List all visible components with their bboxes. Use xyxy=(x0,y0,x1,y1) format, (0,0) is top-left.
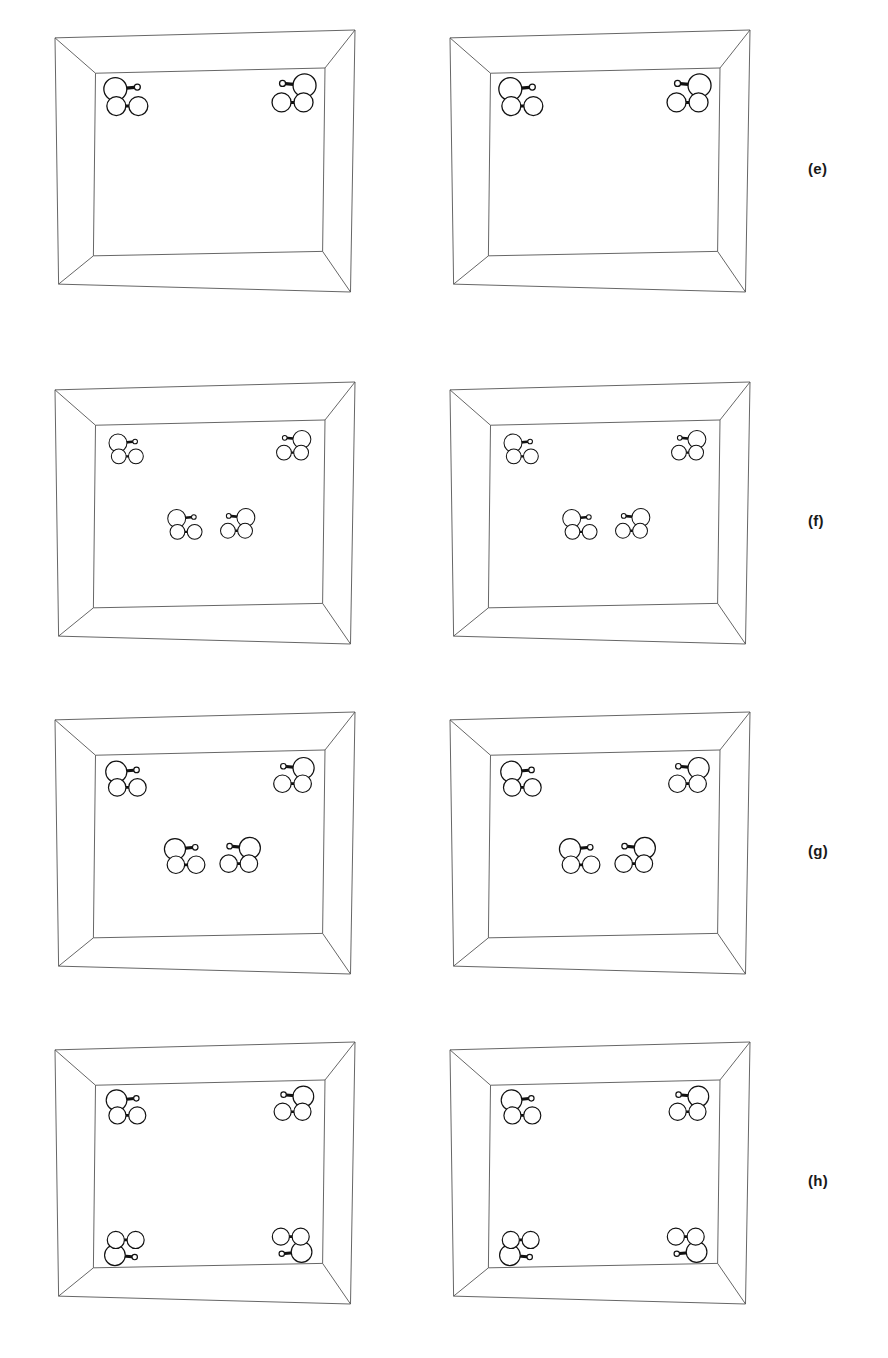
molecule xyxy=(168,510,202,540)
molecule xyxy=(272,1228,312,1262)
cell-edge-top-left xyxy=(55,38,96,73)
molecule xyxy=(220,837,260,872)
unit-cell-box xyxy=(55,712,355,974)
atom-medium-sphere xyxy=(167,856,184,873)
atom-medium-sphere xyxy=(524,97,543,116)
molecule xyxy=(669,1086,709,1120)
cell-front-face xyxy=(55,30,355,292)
molecule xyxy=(501,761,541,796)
unit-cell-box xyxy=(450,1042,750,1304)
atom-medium-sphere xyxy=(669,1103,686,1120)
atom-small-sphere xyxy=(675,80,681,86)
atom-medium-sphere xyxy=(565,524,580,539)
cell-edge-top-right xyxy=(720,1042,750,1080)
panel-label-e: (e) xyxy=(808,160,827,177)
cell-front-face xyxy=(55,382,355,644)
atom-medium-sphere xyxy=(524,1107,541,1124)
cell-edge-top-right xyxy=(720,382,750,420)
stereo-view-left-g xyxy=(55,712,355,974)
cell-edge-bottom-right xyxy=(718,1263,746,1304)
cell-front-face xyxy=(450,712,750,974)
unit-cell-box xyxy=(55,30,355,292)
molecule xyxy=(501,1090,541,1124)
cell-front-face xyxy=(450,382,750,644)
atom-medium-sphere xyxy=(294,445,309,460)
stereo-view-left-e xyxy=(55,30,355,292)
cell-front-face xyxy=(450,1042,750,1304)
atom-small-sphere xyxy=(676,764,682,770)
molecule xyxy=(109,434,143,464)
atom-medium-sphere xyxy=(129,449,144,464)
atom-medium-sphere xyxy=(240,855,257,872)
atom-medium-sphere xyxy=(635,855,652,872)
atom-medium-sphere xyxy=(524,449,539,464)
stereo-view-right-e xyxy=(450,30,750,292)
atom-medium-sphere xyxy=(667,93,686,112)
molecule xyxy=(616,509,650,539)
atom-small-sphere xyxy=(677,435,682,440)
atom-small-sphere xyxy=(621,514,626,519)
atom-medium-sphere xyxy=(502,1231,519,1248)
cell-edge-top-left xyxy=(55,390,96,425)
atom-medium-sphere xyxy=(220,855,237,872)
cell-edge-top-left xyxy=(450,38,491,73)
cell-front-face xyxy=(55,712,355,974)
atom-small-sphere xyxy=(280,80,286,86)
cell-edge-bottom-left xyxy=(59,608,94,636)
atom-small-sphere xyxy=(529,767,535,773)
atom-medium-sphere xyxy=(689,1103,706,1120)
unit-cell-box xyxy=(55,1042,355,1304)
atom-small-sphere xyxy=(587,515,592,520)
atom-medium-sphere xyxy=(108,779,125,796)
atom-medium-sphere xyxy=(221,523,236,538)
cell-edge-top-left xyxy=(55,720,96,755)
atom-small-sphere xyxy=(622,843,628,849)
molecule xyxy=(104,78,148,116)
atom-medium-sphere xyxy=(633,523,648,538)
atom-medium-sphere xyxy=(562,856,579,873)
atom-small-sphere xyxy=(281,1092,286,1097)
molecule xyxy=(221,509,255,539)
stereo-view-right-h xyxy=(450,1042,750,1304)
atom-medium-sphere xyxy=(277,445,292,460)
atom-medium-sphere xyxy=(689,445,704,460)
atom-medium-sphere xyxy=(689,93,708,112)
atom-small-sphere xyxy=(227,843,233,849)
atom-small-sphere xyxy=(132,1254,137,1259)
atom-medium-sphere xyxy=(522,1231,539,1248)
cell-edge-top-right xyxy=(325,712,355,750)
atom-small-sphere xyxy=(134,84,140,90)
atom-medium-sphere xyxy=(272,1228,289,1245)
atom-medium-sphere xyxy=(187,524,202,539)
atom-medium-sphere xyxy=(274,775,291,792)
molecule xyxy=(615,837,655,872)
atom-medium-sphere xyxy=(294,775,311,792)
atom-medium-sphere xyxy=(667,1228,684,1245)
atom-medium-sphere xyxy=(292,1228,309,1245)
atom-medium-sphere xyxy=(506,449,521,464)
cell-edge-top-left xyxy=(450,720,491,755)
atom-medium-sphere xyxy=(111,449,126,464)
atom-small-sphere xyxy=(282,435,287,440)
molecule xyxy=(105,1231,145,1265)
molecule xyxy=(106,1090,146,1124)
atom-small-sphere xyxy=(279,1251,284,1256)
atom-medium-sphere xyxy=(616,523,631,538)
atom-medium-sphere xyxy=(502,97,521,116)
atom-small-sphere xyxy=(527,1254,532,1259)
atom-medium-sphere xyxy=(274,1103,291,1120)
atom-medium-sphere xyxy=(170,524,185,539)
stereo-view-left-f xyxy=(55,382,355,644)
cell-back-face xyxy=(488,68,720,256)
atom-small-sphere xyxy=(192,515,197,520)
cell-edge-bottom-right xyxy=(323,1263,351,1304)
atom-medium-sphere xyxy=(109,1107,126,1124)
atom-small-sphere xyxy=(133,439,138,444)
molecule xyxy=(164,839,204,874)
molecule xyxy=(667,74,711,112)
cell-edge-bottom-right xyxy=(323,251,351,292)
atom-medium-sphere xyxy=(582,856,599,873)
atom-medium-sphere xyxy=(687,1228,704,1245)
cell-edge-bottom-right xyxy=(323,603,351,644)
atom-medium-sphere xyxy=(127,1231,144,1248)
